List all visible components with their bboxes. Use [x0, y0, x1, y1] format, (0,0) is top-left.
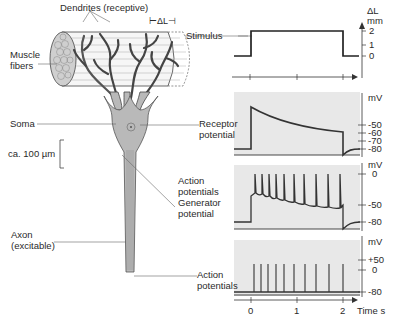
- generator-ytick: -50: [368, 200, 382, 210]
- neuron-body: [104, 96, 158, 272]
- generator-ytick: 0: [372, 169, 377, 179]
- generator-potential-label-1: Generator: [178, 198, 221, 209]
- stimulus-panel: [232, 22, 366, 80]
- action-potentials-label-1b: potentials: [178, 187, 219, 198]
- time-axis-label: Time s: [357, 306, 385, 316]
- axon-action-potentials-panel: [234, 236, 366, 303]
- stimulus-ytick: 1: [369, 40, 374, 50]
- scale-bar-label: ca. 100 µm: [8, 149, 55, 160]
- scale-bar: [60, 140, 64, 168]
- time-xtick: 1: [294, 306, 299, 316]
- axon-label-2: (excitable): [11, 241, 55, 252]
- stimulus-ytick: 2: [369, 26, 374, 36]
- dendrites-label: Dendrites (receptive): [60, 3, 148, 14]
- time-xtick: 2: [340, 306, 345, 316]
- receptor-potential-label-1: Receptor: [199, 119, 238, 130]
- generator-potential-label-2: potential: [178, 209, 214, 220]
- receptor-y-unit: mV: [368, 93, 382, 103]
- receptor-potential-panel: [234, 92, 366, 157]
- receptor-potential-label-2: potential: [199, 130, 235, 141]
- action-potentials-label-2b: potentials: [197, 281, 238, 292]
- soma-label: Soma: [10, 119, 35, 130]
- axon-ytick: -80: [368, 287, 382, 297]
- stimulus-label: Stimulus: [186, 31, 222, 42]
- muscle-fibers-label-2: fibers: [10, 61, 33, 72]
- stimulus-ytick: 0: [369, 51, 374, 61]
- axon-ytick: 0: [372, 265, 377, 275]
- generator-potential-panel: [234, 163, 366, 231]
- generator-ytick: -80: [368, 217, 382, 227]
- action-potentials-label-2a: Action: [197, 270, 223, 281]
- muscle-fibers-label-1: Muscle: [10, 50, 40, 61]
- delta-l-label: ⊢ΔL⊣: [149, 16, 176, 27]
- axon-label-1: Axon: [11, 230, 33, 241]
- time-xtick: 0: [248, 306, 253, 316]
- action-potentials-label-1a: Action: [178, 176, 204, 187]
- axon-y-unit: mV: [368, 237, 382, 247]
- receptor-ytick: -80: [368, 144, 382, 154]
